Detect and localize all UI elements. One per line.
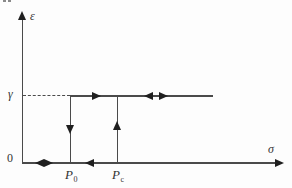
x-axis-line xyxy=(22,162,280,164)
epsilon-axis-label: ε xyxy=(30,10,35,22)
axis-double-arrow-left xyxy=(35,159,44,167)
origin-label: 0 xyxy=(7,152,13,164)
pc-label: Pc xyxy=(112,168,124,184)
sigma-axis-label: σ xyxy=(268,143,274,155)
gamma-label: γ xyxy=(8,88,13,100)
pc-up-arrow xyxy=(113,121,121,130)
p0-down-arrow xyxy=(66,125,74,134)
pc-label-base: P xyxy=(112,167,120,182)
upper-branch-right-arrow-2 xyxy=(159,92,168,100)
y-axis-arrowhead xyxy=(18,11,26,20)
p0-label: P0 xyxy=(65,168,77,184)
axis-left-arrow xyxy=(85,159,94,167)
y-axis-line xyxy=(22,14,24,163)
axis-double-arrow-right xyxy=(44,159,53,167)
p0-label-base: P xyxy=(65,167,73,182)
x-axis-arrowhead xyxy=(275,159,284,167)
hysteresis-diagram: ε σ 0 γ P0 Pc xyxy=(0,0,292,188)
gamma-dashed-leader xyxy=(23,95,70,96)
pc-label-subscript: c xyxy=(120,175,124,184)
cropped-text-fragment xyxy=(3,0,6,2)
cropped-text-fragment xyxy=(8,0,11,2)
p0-label-subscript: 0 xyxy=(73,175,77,184)
upper-branch-right-arrow xyxy=(92,92,101,100)
upper-branch-left-arrow xyxy=(144,92,153,100)
